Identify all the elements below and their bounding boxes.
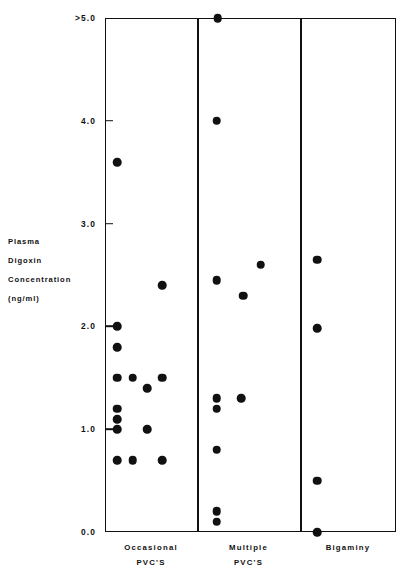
y-axis-title: Plasma Digoxin Concentration (ng/ml) <box>8 232 100 308</box>
data-point <box>239 291 248 300</box>
data-point <box>143 384 152 393</box>
x-category-label-2: Bigaminy <box>326 540 371 555</box>
y-axis-title-line-4: (ng/ml) <box>8 289 100 308</box>
data-point <box>128 456 137 465</box>
data-point <box>212 404 221 413</box>
y-axis-title-line-3: Concentration <box>8 270 100 289</box>
x-category-label-0: OccasionalPVC'S <box>124 540 178 570</box>
chart-page: Plasma Digoxin Concentration (ng/ml) >5.… <box>0 0 416 588</box>
data-point <box>158 281 167 290</box>
data-point <box>158 374 167 383</box>
data-point <box>113 456 122 465</box>
data-point <box>212 117 221 126</box>
data-point <box>113 322 122 331</box>
data-point <box>237 394 246 403</box>
data-point <box>158 456 167 465</box>
data-point <box>213 14 222 23</box>
x-category-label-1-line-1: PVC'S <box>229 555 268 570</box>
x-category-label-0-line-0: Occasional <box>124 540 178 555</box>
y-axis-title-line-1: Plasma <box>8 232 100 251</box>
data-point <box>212 507 221 516</box>
data-point <box>313 324 322 333</box>
data-point <box>113 404 122 413</box>
y-axis-title-line-2: Digoxin <box>8 251 100 270</box>
data-point <box>113 374 122 383</box>
y-tick-label-4: 1.0 <box>50 424 96 434</box>
data-point <box>313 528 322 537</box>
x-category-label-1: MultiplePVC'S <box>229 540 268 570</box>
plot-frame <box>105 18 396 532</box>
data-point <box>313 476 322 485</box>
data-point <box>212 517 221 526</box>
data-point <box>113 343 122 352</box>
x-category-label-2-line-0: Bigaminy <box>326 540 371 555</box>
data-point <box>313 255 322 264</box>
category-divider-1 <box>300 18 302 532</box>
data-point <box>113 415 122 424</box>
data-point <box>128 374 137 383</box>
y-tick-label-0: >5.0 <box>50 13 96 23</box>
data-point <box>212 394 221 403</box>
y-tick-label-3: 2.0 <box>50 321 96 331</box>
category-divider-0 <box>197 18 199 532</box>
y-tick-label-1: 4.0 <box>50 116 96 126</box>
data-point <box>113 425 122 434</box>
x-category-label-1-line-0: Multiple <box>229 540 268 555</box>
data-point <box>113 158 122 167</box>
y-tick-label-5: 0.0 <box>50 527 96 537</box>
y-tick-label-2: 3.0 <box>50 219 96 229</box>
x-category-label-0-line-1: PVC'S <box>124 555 178 570</box>
data-point <box>143 425 152 434</box>
data-point <box>212 276 221 285</box>
data-point <box>212 445 221 454</box>
data-point <box>257 260 266 269</box>
